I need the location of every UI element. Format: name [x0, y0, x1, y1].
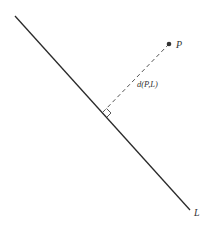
perpendicular-distance — [103, 44, 169, 112]
distance-label: d(P,L) — [137, 79, 158, 89]
point-p-label: P — [175, 39, 182, 50]
point-p — [167, 42, 172, 47]
distance-diagram: P d(P,L) L — [0, 0, 211, 227]
right-angle-marker — [107, 109, 112, 118]
line-l — [15, 16, 190, 210]
line-l-label: L — [193, 207, 200, 218]
